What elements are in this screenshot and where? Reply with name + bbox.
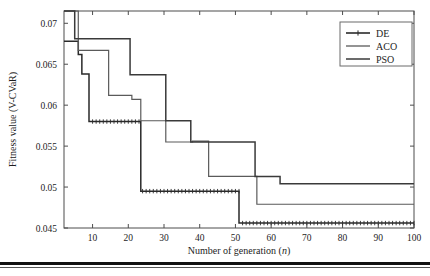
y-tick-label: 0.07	[40, 19, 57, 29]
x-tick-label: 40	[195, 233, 205, 243]
x-tick-label: 100	[407, 233, 422, 243]
y-tick-label: 0.065	[36, 60, 58, 70]
page-divider-thin	[0, 267, 430, 268]
legend-label-de: DE	[376, 28, 389, 39]
series-line-de	[64, 41, 414, 223]
y-tick-label: 0.055	[36, 142, 58, 152]
x-tick-label: 90	[374, 233, 384, 243]
x-tick-label: 20	[124, 233, 134, 243]
x-tick-label: 60	[266, 233, 276, 243]
x-axis-title-variable: n	[282, 245, 287, 256]
legend-label-pso: PSO	[376, 54, 394, 65]
y-tick-label: 0.06	[40, 101, 57, 111]
x-tick-label: 30	[159, 233, 169, 243]
x-tick-label: 70	[302, 233, 312, 243]
y-axis-title: Fitness value (V-CVaR)	[7, 72, 19, 167]
y-tick-label: 0.05	[40, 183, 57, 193]
y-tick-label: 0.045	[36, 224, 58, 234]
figure-container: 1020304050607080901000.0450.050.0550.060…	[0, 0, 430, 276]
x-tick-label: 10	[88, 233, 98, 243]
legend-label-aco: ACO	[376, 41, 397, 52]
x-axis-title: Number of generation (n)	[188, 245, 290, 257]
x-tick-label: 50	[231, 233, 241, 243]
x-tick-label: 80	[338, 233, 348, 243]
fitness-convergence-chart: 1020304050607080901000.0450.050.0550.060…	[0, 0, 430, 276]
page-divider-thick	[0, 262, 430, 265]
